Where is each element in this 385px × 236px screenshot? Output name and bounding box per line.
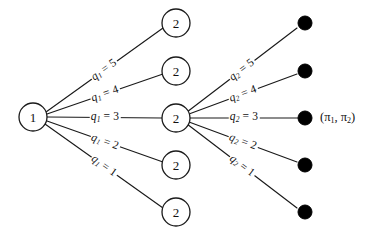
terminal-node-0 (298, 16, 312, 30)
node-player-2-label-0: 2 (173, 16, 180, 31)
terminal-node-3 (298, 158, 312, 172)
node-player-2-label-4: 2 (173, 205, 180, 220)
node-player-2-label-1: 2 (173, 64, 180, 79)
payoff-annotation: (π1, π2) (320, 111, 355, 125)
edge-label-q1-3: q1 = 3 (90, 111, 121, 123)
node-player-2-label-2: 2 (173, 111, 180, 126)
game-tree-figure: 122222 q1 = 5q1 = 4q1 = 3q1 = 2q1 = 1q2 … (0, 0, 385, 236)
payoff-pi-1: π1 (324, 110, 334, 124)
terminal-node-1 (298, 64, 312, 78)
payoff-pi-2: π2 (341, 110, 351, 124)
terminal-node-4 (298, 205, 312, 219)
node-player-1-label: 1 (30, 110, 37, 125)
node-player-2-label-3: 2 (173, 158, 180, 173)
terminal-node-2 (298, 111, 312, 125)
edge-label-q2-3: q2 = 3 (229, 111, 260, 123)
